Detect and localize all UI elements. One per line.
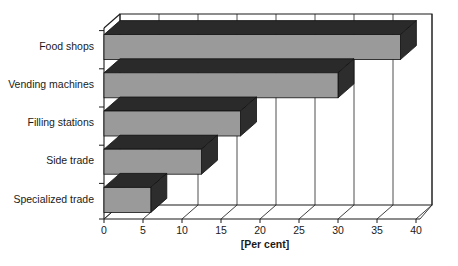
category-labels: Food shopsVending machinesFilling statio… — [8, 40, 94, 205]
floor-tick-diagonal — [377, 205, 393, 219]
bar-front-face — [104, 187, 151, 212]
bar-top-face — [104, 97, 257, 111]
value-axis-tick-labels: 0510152025303540 — [101, 219, 422, 236]
bar-food-shops — [104, 21, 416, 60]
category-label: Side trade — [46, 154, 94, 166]
floor-tick-diagonal — [221, 205, 237, 219]
x-axis-title: [Per cent] — [241, 238, 289, 250]
value-tick-label: 10 — [176, 224, 188, 236]
bar-specialized-trade — [104, 173, 167, 212]
bar-filling-stations — [104, 97, 257, 136]
bar-vending-machines — [104, 59, 354, 98]
bar-front-face — [104, 35, 400, 60]
category-label: Vending machines — [8, 78, 94, 90]
category-label: Food shops — [39, 40, 94, 52]
floor-tick-diagonal — [416, 205, 432, 219]
value-tick-label: 5 — [140, 224, 146, 236]
value-tick-label: 15 — [215, 224, 227, 236]
value-tick-label: 30 — [332, 224, 344, 236]
floor-tick-diagonal — [182, 205, 198, 219]
bar-front-face — [104, 149, 202, 174]
category-label: Specialized trade — [13, 193, 94, 205]
floor-tick-diagonal — [338, 205, 354, 219]
category-label: Filling stations — [27, 116, 94, 128]
bar-front-face — [104, 111, 241, 136]
category-axis-ticks — [99, 31, 104, 219]
bars — [104, 21, 416, 213]
value-tick-label: 25 — [293, 224, 305, 236]
value-tick-label: 20 — [254, 224, 266, 236]
bar-side-trade — [104, 135, 218, 174]
value-tick-label: 40 — [410, 224, 422, 236]
bar-top-face — [104, 135, 218, 149]
bar-front-face — [104, 73, 338, 98]
floor-tick-diagonal — [260, 205, 276, 219]
chart-canvas: Food shopsVending machinesFilling statio… — [0, 0, 458, 266]
floor-tick-diagonal — [299, 205, 315, 219]
value-tick-label: 35 — [371, 224, 383, 236]
value-tick-label: 0 — [101, 224, 107, 236]
bar-chart-figure: Food shopsVending machinesFilling statio… — [0, 0, 458, 266]
bar-top-face — [104, 21, 416, 35]
bar-top-face — [104, 59, 354, 73]
